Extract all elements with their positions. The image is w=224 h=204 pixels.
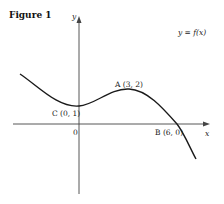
function-curve: [20, 74, 196, 159]
x-axis-arrow-icon: [203, 122, 210, 127]
x-axis-label: x: [205, 129, 209, 138]
y-axis-arrow-icon: [77, 16, 82, 23]
y-axis-label: y: [72, 12, 76, 21]
origin-label: 0: [73, 128, 78, 137]
point-c-label: C (0, 1): [52, 109, 80, 118]
point-a-label: A (3, 2): [115, 80, 143, 89]
graph-canvas: [0, 0, 224, 204]
point-b-label: B (6, 0): [155, 128, 183, 137]
